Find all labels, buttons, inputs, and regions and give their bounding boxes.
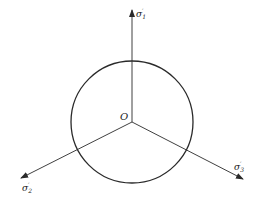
sigma2-label: σ2′ <box>22 181 32 194</box>
sigma3-label: σ3′ <box>234 160 244 173</box>
deviatoric-plane-diagram: O σ1′ σ2′ σ3′ <box>0 0 256 199</box>
svg-text:σ3′: σ3′ <box>234 160 244 173</box>
svg-text:σ2′: σ2′ <box>22 181 32 194</box>
svg-text:σ1′: σ1′ <box>136 7 146 20</box>
sigma2-axis <box>21 122 132 178</box>
sigma3-axis <box>132 122 243 179</box>
origin-label: O <box>120 111 128 122</box>
sigma1-label: σ1′ <box>136 7 146 20</box>
